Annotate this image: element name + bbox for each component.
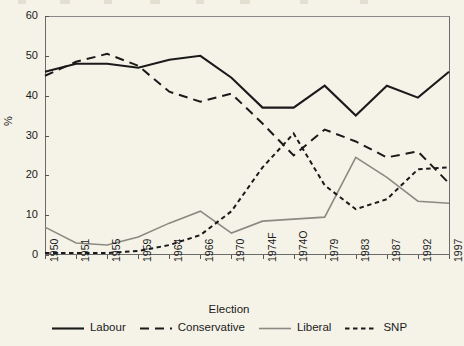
x-tick-mark [45, 255, 46, 259]
legend-label: Conservative [178, 322, 245, 334]
x-tick-label: 1951 [80, 239, 91, 262]
x-tick-mark [294, 255, 295, 259]
legend-swatch-icon [139, 323, 173, 332]
y-tick-label: 30 [0, 130, 38, 141]
x-tick-label: 1955 [111, 239, 122, 262]
x-tick-label: 1959 [142, 239, 153, 262]
y-tick-mark [45, 175, 49, 176]
x-tick-mark [325, 255, 326, 259]
x-tick-mark [263, 255, 264, 259]
x-tick-mark [387, 255, 388, 259]
y-tick-mark [45, 16, 49, 17]
x-tick-label: 1964 [173, 239, 184, 262]
x-tick-mark [76, 255, 77, 259]
y-tick-mark [45, 56, 49, 57]
legend-swatch-icon [258, 323, 292, 332]
y-tick-label: 40 [0, 90, 38, 101]
legend-item-liberal[interactable]: Liberal [258, 322, 332, 334]
chart-legend: LabourConservativeLiberalSNP [0, 322, 458, 334]
y-tick-label: 10 [0, 209, 38, 220]
y-tick-label: 50 [0, 50, 38, 61]
x-tick-mark [169, 255, 170, 259]
legend-item-labour[interactable]: Labour [51, 322, 126, 334]
y-tick-mark [45, 215, 49, 216]
series-conservative [45, 54, 449, 183]
x-tick-label: 1950 [49, 239, 60, 262]
x-tick-mark [418, 255, 419, 259]
x-axis-title: Election [0, 303, 458, 315]
x-tick-mark [200, 255, 201, 259]
series-snp [45, 134, 449, 253]
legend-item-snp[interactable]: SNP [344, 322, 407, 334]
legend-label: Liberal [297, 322, 332, 334]
y-tick-mark [45, 136, 49, 137]
x-tick-label: 1974O [298, 230, 309, 262]
x-tick-label: 1997 [453, 239, 464, 262]
x-tick-mark [107, 255, 108, 259]
x-tick-mark [231, 255, 232, 259]
y-tick-label: 20 [0, 169, 38, 180]
y-tick-label: 0 [0, 249, 38, 260]
legend-label: Labour [90, 322, 126, 334]
legend-item-conservative[interactable]: Conservative [139, 322, 245, 334]
x-tick-label: 1970 [235, 239, 246, 262]
x-tick-label: 1992 [422, 239, 433, 262]
x-tick-mark [356, 255, 357, 259]
y-axis-title: % [2, 116, 14, 126]
series-liberal [45, 157, 449, 245]
x-tick-label: 1979 [329, 239, 340, 262]
x-tick-mark [449, 255, 450, 259]
x-tick-label: 1983 [360, 239, 371, 262]
series-layer [45, 16, 450, 255]
x-tick-label: 1974F [267, 232, 278, 262]
legend-swatch-icon [344, 323, 378, 332]
y-tick-mark [45, 96, 49, 97]
y-tick-label: 60 [0, 10, 38, 21]
cropped-text-artifact [0, 0, 458, 4]
legend-swatch-icon [51, 323, 85, 332]
x-tick-label: 1966 [204, 239, 215, 262]
x-tick-label: 1987 [391, 239, 402, 262]
x-tick-mark [138, 255, 139, 259]
series-labour [45, 56, 449, 116]
legend-label: SNP [383, 322, 407, 334]
